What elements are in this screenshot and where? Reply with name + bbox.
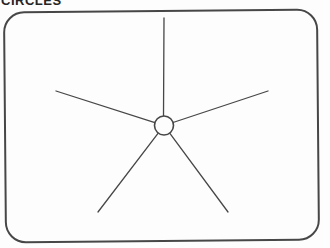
center-circle	[155, 116, 174, 135]
spoke-line-upper-right	[173, 91, 268, 123]
scanned-page: CIRCLES	[0, 0, 330, 248]
spoke-line-upper-left	[56, 91, 155, 123]
spoke-line-lower-left	[98, 133, 158, 212]
spoke-line-lower-right	[170, 133, 228, 212]
circle-spokes-figure	[0, 0, 330, 248]
spoke-line-top	[164, 18, 165, 116]
